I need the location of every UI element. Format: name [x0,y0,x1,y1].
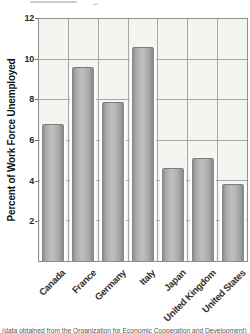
x-tick-label-germany: Germany [92,267,127,302]
y-tick-mark-12 [35,18,38,19]
x-tick-label-france: France [69,267,98,296]
bar-well [190,158,216,261]
y-tick-label-6: 6 [29,135,34,145]
bar-germany [102,102,124,261]
column-germany [98,19,128,261]
y-tick-mark-8 [35,99,38,100]
bar-france [72,67,94,261]
column-italy [128,19,158,261]
unemployment-bar-chart-figure: Percent of Work Force Unemployed 2468101… [0,0,250,333]
y-tick-label-12: 12 [25,13,34,23]
x-tick-label-japan: Japan [162,267,188,293]
y-tick-mark-4 [35,181,38,182]
bar-well [130,47,156,261]
bar-well [40,124,66,261]
column-japan [157,19,187,261]
cropped-title-remnant-mark [93,0,98,5]
y-tick-label-4: 4 [29,176,34,186]
bar-japan [162,168,184,261]
y-axis-title: Percent of Work Force Unemployed [6,59,17,222]
y-tick-mark-2 [35,221,38,222]
column-united-states [217,19,247,261]
y-tick-label-8: 8 [29,94,34,104]
cropped-title-remnant-line [30,1,77,3]
bar-united-states [222,184,244,261]
bar-well [70,67,96,261]
column-united-kingdom [187,19,217,261]
bar-italy [132,47,154,261]
bar-well [220,184,246,261]
x-tick-label-canada: Canada [37,267,68,298]
column-france [68,19,98,261]
y-tick-label-2: 2 [29,216,34,226]
plot-area [38,18,248,262]
column-canada [39,19,68,261]
y-tick-mark-10 [35,59,38,60]
bar-united-kingdom [192,158,214,261]
figure-caption-clipped: (data obtained from the Organization for… [2,327,248,333]
bar-canada [42,124,64,261]
x-tick-label-italy: Italy [138,267,158,287]
y-tick-mark-6 [35,140,38,141]
y-tick-label-10: 10 [25,54,34,64]
bar-well [160,168,186,261]
bar-well [100,102,126,261]
